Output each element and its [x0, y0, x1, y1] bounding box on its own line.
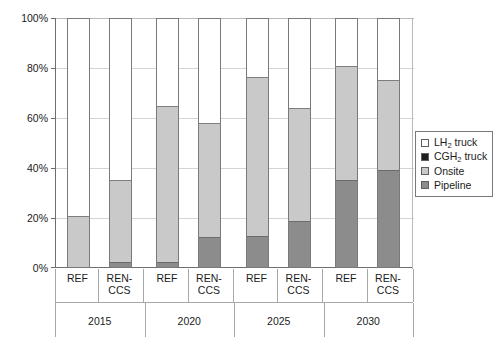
y-tick-label-100: 100% [6, 13, 48, 23]
x-axis-separator [55, 269, 56, 302]
x-label-scenario: REF [324, 272, 368, 284]
bar-2030-ren-ccs [377, 18, 400, 268]
bar-segment-onsite [378, 80, 399, 170]
legend-item-onsite: Onsite [421, 164, 488, 178]
bars-layer [56, 18, 414, 268]
x-label-year: 2015 [56, 315, 144, 327]
bar-segment-lh2-truck [336, 18, 357, 66]
x-axis-separator [322, 269, 323, 302]
y-axis-labels: 100% 80% 60% 40% 20% 0% [0, 18, 48, 268]
x-axis-separator [277, 269, 278, 302]
bar-segment-pipeline [247, 236, 268, 267]
x-axis-year-separator [145, 303, 146, 337]
bar-segment-pipeline [336, 180, 357, 268]
bar-segment-pipeline [289, 221, 310, 267]
x-axis-scenario-row: REFREN-CCSREFREN-CCSREFREN-CCSREFREN-CCS [55, 269, 413, 305]
x-label-scenario: REF [234, 272, 278, 284]
x-axis-year-separator [234, 303, 235, 337]
bar-segment-pipeline [199, 237, 220, 267]
x-label-scenario: REN-CCS [276, 272, 320, 296]
bar-2020-ren-ccs [198, 18, 221, 268]
bar-segment-lh2-truck [378, 18, 399, 80]
bar-segment-lh2-truck [157, 18, 178, 106]
y-tick-label-20: 20% [6, 213, 48, 223]
bar-segment-lh2-truck [199, 18, 220, 123]
x-label-year: 2020 [145, 315, 233, 327]
x-axis-separator [98, 269, 99, 302]
y-tick-label-80: 80% [6, 63, 48, 73]
x-axis-year-row: 2015202020252030 [55, 302, 413, 337]
x-axis-separator [188, 269, 189, 302]
legend-item-pipeline: Pipeline [421, 178, 488, 192]
y-tick-label-60: 60% [6, 113, 48, 123]
x-label-scenario: REF [55, 272, 99, 284]
x-axis-year-separator [413, 303, 414, 337]
bar-segment-lh2-truck [289, 18, 310, 108]
x-label-scenario: REN-CCS [366, 272, 410, 296]
legend-swatch-lh2-truck-icon [421, 139, 429, 147]
bar-segment-pipeline [378, 170, 399, 268]
plot-right-border [412, 18, 413, 269]
bar-2015-ren-ccs [109, 18, 132, 268]
bar-segment-onsite [68, 216, 89, 267]
bar-segment-onsite [289, 108, 310, 221]
x-label-scenario: REF [145, 272, 189, 284]
y-tick-label-40: 40% [6, 163, 48, 173]
legend-swatch-pipeline-icon [421, 181, 429, 189]
bar-segment-lh2-truck [68, 18, 89, 216]
bar-segment-lh2-truck [247, 18, 268, 77]
x-axis-separator [143, 269, 144, 302]
x-axis-separator [413, 269, 414, 302]
plot-area [55, 18, 413, 268]
y-tick-label-0: 0% [6, 263, 48, 273]
bar-2025-ref [246, 18, 269, 268]
bar-segment-onsite [336, 66, 357, 180]
x-axis-year-separator [324, 303, 325, 337]
x-axis: REFREN-CCSREFREN-CCSREFREN-CCSREFREN-CCS… [55, 269, 413, 337]
x-axis-year-separator [55, 303, 56, 337]
legend-label-cgh2-truck: CGH2 truck [434, 150, 487, 164]
bar-segment-onsite [157, 106, 178, 262]
x-label-year: 2025 [235, 315, 323, 327]
x-label-scenario: REN-CCS [187, 272, 231, 296]
bar-2025-ren-ccs [288, 18, 311, 268]
bar-segment-lh2-truck [110, 18, 131, 180]
bar-2030-ref [335, 18, 358, 268]
legend-item-cgh2-truck: CGH2 truck [421, 150, 488, 164]
bar-segment-onsite [247, 77, 268, 236]
legend: LH2 truck CGH2 truck Onsite Pipeline [415, 131, 493, 197]
legend-label-onsite: Onsite [434, 165, 464, 177]
x-label-year: 2030 [324, 315, 412, 327]
x-axis-separator [233, 269, 234, 302]
bar-segment-pipeline [157, 262, 178, 267]
bar-segment-pipeline [110, 262, 131, 267]
bar-2015-ref [67, 18, 90, 268]
x-label-scenario: REN-CCS [97, 272, 141, 296]
stacked-bar-chart: 100% 80% 60% 40% 20% 0% REFREN-CCSREFREN… [0, 0, 498, 337]
legend-label-lh2-truck: LH2 truck [434, 136, 477, 150]
legend-item-lh2-truck: LH2 truck [421, 136, 488, 150]
bar-segment-onsite [199, 123, 220, 237]
bar-2020-ref [156, 18, 179, 268]
bar-segment-onsite [110, 180, 131, 263]
legend-swatch-onsite-icon [421, 167, 429, 175]
x-axis-separator [367, 269, 368, 302]
legend-swatch-cgh2-truck-icon [421, 153, 429, 161]
legend-label-pipeline: Pipeline [434, 179, 471, 191]
